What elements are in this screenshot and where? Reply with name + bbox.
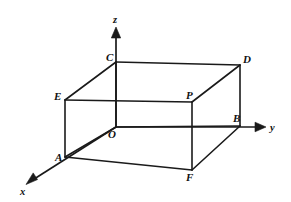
vertex-label-E: E <box>54 91 62 102</box>
vertex-label-B: B <box>233 113 241 124</box>
geometry-figure: O A B C D E F P x y z <box>0 0 291 202</box>
vertex-label-F: F <box>186 172 194 183</box>
vertex-label-C: C <box>106 52 114 63</box>
edge-C-E <box>65 62 116 100</box>
vertex-label-O: O <box>108 129 116 140</box>
edge-P-D <box>192 65 240 102</box>
box-edges <box>65 62 240 170</box>
y-axis-arrowhead <box>255 122 266 132</box>
vertex-label-P: P <box>186 90 193 101</box>
axis-label-x: x <box>20 186 25 197</box>
figure-canvas <box>0 0 291 202</box>
vertex-label-A: A <box>55 152 63 163</box>
edge-F-B <box>192 126 240 170</box>
axis-label-z: z <box>113 14 117 25</box>
edge-O-B <box>116 126 240 127</box>
vertex-label-D: D <box>243 54 251 65</box>
edge-A-F <box>65 157 192 170</box>
x-axis-arrowhead <box>26 173 38 185</box>
z-axis-arrowhead <box>111 27 120 38</box>
edge-E-P <box>65 100 192 102</box>
axis-label-y: y <box>270 122 275 133</box>
edge-C-D <box>116 62 240 65</box>
